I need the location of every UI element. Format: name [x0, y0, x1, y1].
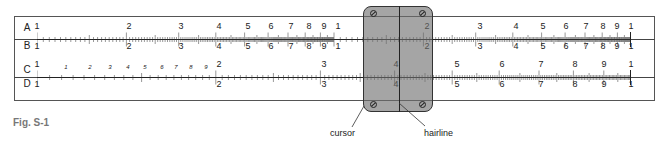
cursor-callout-label: cursor: [330, 128, 355, 138]
hairline-callout-label: hairline: [424, 128, 453, 138]
callout-leaders: [0, 0, 669, 143]
figure-caption: Fig. S-1: [13, 117, 49, 128]
